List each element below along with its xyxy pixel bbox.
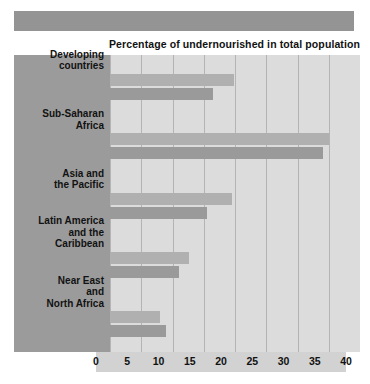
- category-label: Latin Americaand theCaribbean: [12, 215, 104, 250]
- x-axis-tick-label: 40: [340, 355, 352, 367]
- bar: [110, 311, 160, 323]
- plot-area: [110, 55, 360, 352]
- gridline: [266, 55, 267, 352]
- gridline: [329, 55, 330, 352]
- bar: [110, 325, 166, 337]
- bar: [110, 266, 179, 278]
- category-label-panel: DevelopingcountriesSub-SaharanAfricaAsia…: [14, 55, 110, 352]
- bar: [110, 147, 323, 159]
- gridline: [298, 55, 299, 352]
- category-label: Near EastandNorth Africa: [12, 275, 104, 310]
- x-axis-tick-label: 15: [184, 355, 196, 367]
- x-axis: 0510152025303540: [96, 352, 346, 372]
- x-axis-tick-label: 10: [153, 355, 165, 367]
- category-label: Sub-SaharanAfrica: [12, 108, 104, 131]
- gridline: [235, 55, 236, 352]
- x-axis-tick-label: 20: [215, 355, 227, 367]
- x-axis-tick-label: 25: [246, 355, 258, 367]
- bar: [110, 133, 329, 145]
- category-label: Developingcountries: [12, 49, 104, 72]
- x-axis-tick-label: 35: [309, 355, 321, 367]
- x-axis-tick-label: 0: [93, 355, 99, 367]
- bar: [110, 207, 207, 219]
- bar: [110, 252, 189, 264]
- bar-chart: DevelopingcountriesSub-SaharanAfricaAsia…: [14, 55, 360, 352]
- category-label: Asia andthe Pacific: [12, 168, 104, 191]
- x-axis-tick-label: 30: [278, 355, 290, 367]
- bar: [110, 193, 232, 205]
- bar: [110, 74, 234, 86]
- x-axis-tick-label: 5: [124, 355, 130, 367]
- bar: [110, 88, 213, 100]
- header-band: [14, 11, 354, 31]
